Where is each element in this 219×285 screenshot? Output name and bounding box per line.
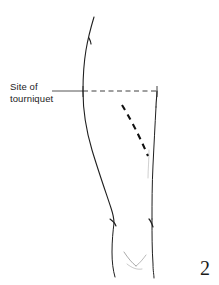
figure-background <box>0 0 219 285</box>
tourniquet-label: Site of tourniquet <box>10 81 88 104</box>
tourniquet-label-line-1: Site of <box>10 81 88 93</box>
tourniquet-label-line-2: tourniquet <box>10 93 88 105</box>
leg-illustration <box>0 0 219 285</box>
figure-container: Site of tourniquet 2 <box>0 0 219 285</box>
figure-number: 2 <box>200 258 210 278</box>
